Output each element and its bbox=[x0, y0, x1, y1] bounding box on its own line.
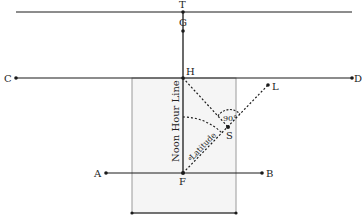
plate-corner-right bbox=[234, 211, 237, 214]
sundial-diagram: T G C D H L S A B F Noon Hour Line Latit… bbox=[0, 0, 362, 216]
right-angle-label: 90° bbox=[223, 114, 237, 123]
label-G: G bbox=[179, 17, 187, 28]
point-F bbox=[181, 171, 185, 175]
point-S bbox=[226, 125, 230, 129]
label-C: C bbox=[4, 73, 12, 84]
point-G bbox=[181, 29, 185, 33]
point-B bbox=[260, 171, 264, 175]
label-H: H bbox=[186, 66, 195, 77]
label-S: S bbox=[226, 130, 233, 141]
point-H bbox=[181, 76, 185, 80]
point-T bbox=[181, 10, 185, 14]
point-C bbox=[14, 76, 18, 80]
label-B: B bbox=[266, 168, 273, 179]
dial-plate-rectangle bbox=[132, 78, 236, 213]
label-F: F bbox=[179, 176, 186, 187]
point-A bbox=[104, 171, 108, 175]
label-D: D bbox=[354, 73, 362, 84]
plate-corner-left bbox=[130, 211, 133, 214]
point-L bbox=[266, 83, 270, 87]
degree-mark: ° bbox=[188, 156, 192, 165]
label-L: L bbox=[272, 81, 279, 92]
noon-hour-line-label: Noon Hour Line bbox=[170, 80, 181, 162]
label-A: A bbox=[93, 168, 102, 179]
label-T: T bbox=[179, 0, 186, 10]
